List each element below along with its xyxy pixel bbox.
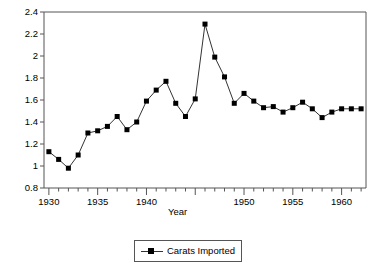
data-point: [163, 79, 168, 84]
data-point: [349, 106, 354, 111]
data-point: [212, 55, 217, 60]
data-point: [232, 101, 237, 106]
data-series-markers: [46, 22, 363, 171]
legend-label: Carats Imported: [167, 246, 235, 256]
y-axis-ticks: [40, 12, 44, 188]
chart-figure: (Millions) 0.811.21.41.61.822.22.4 19301…: [0, 0, 376, 278]
y-tick-label: 2.2: [12, 29, 38, 39]
data-point: [154, 88, 159, 93]
data-point: [124, 127, 129, 132]
data-point: [144, 99, 149, 104]
data-point: [56, 157, 61, 162]
x-tick-label: 1930: [29, 197, 69, 207]
data-point: [290, 105, 295, 110]
x-axis-ticks: [49, 188, 361, 195]
plot-frame: [44, 12, 366, 188]
data-point: [173, 101, 178, 106]
y-tick-label: 1.8: [12, 73, 38, 83]
data-point: [261, 105, 266, 110]
data-point: [242, 91, 247, 96]
x-tick-label: 1935: [78, 197, 118, 207]
line-chart-plot: [0, 0, 376, 278]
x-tick-label: 1950: [224, 197, 264, 207]
data-point: [95, 128, 100, 133]
data-point: [46, 149, 51, 154]
y-tick-label: 1.2: [12, 139, 38, 149]
data-point: [66, 166, 71, 171]
data-point: [320, 115, 325, 120]
data-point: [183, 114, 188, 119]
x-tick-label: 1940: [126, 197, 166, 207]
x-tick-label: 1955: [273, 197, 313, 207]
data-point: [203, 22, 208, 27]
data-point: [222, 74, 227, 79]
data-point: [193, 96, 198, 101]
data-point: [105, 124, 110, 129]
x-axis-title: Year: [168, 207, 187, 217]
y-tick-label: 1: [12, 161, 38, 171]
y-tick-label: 1.4: [12, 117, 38, 127]
data-series-line: [49, 24, 361, 168]
y-tick-label: 1.6: [12, 95, 38, 105]
data-point: [115, 114, 120, 119]
data-point: [281, 110, 286, 115]
data-point: [310, 106, 315, 111]
y-tick-label: 2: [12, 51, 38, 61]
legend-marker-square-icon: [141, 246, 163, 256]
data-point: [359, 106, 364, 111]
data-point: [251, 99, 256, 104]
data-point: [300, 100, 305, 105]
data-point: [271, 104, 276, 109]
y-tick-label: 0.8: [12, 183, 38, 193]
data-point: [85, 131, 90, 136]
data-point: [339, 106, 344, 111]
chart-legend: Carats Imported: [134, 240, 242, 262]
data-point: [134, 120, 139, 125]
data-point: [329, 110, 334, 115]
x-tick-label: 1960: [322, 197, 362, 207]
y-tick-label: 2.4: [12, 7, 38, 17]
data-point: [76, 153, 81, 158]
